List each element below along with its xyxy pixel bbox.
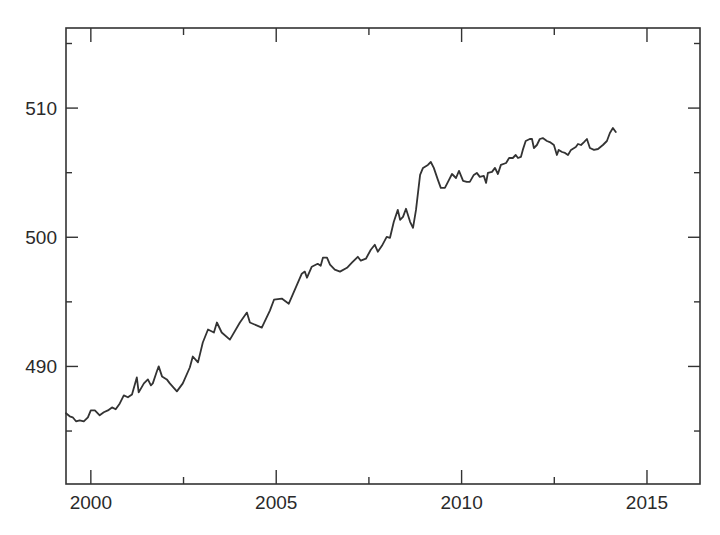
- tick-labels: 2000200520102015490500510: [25, 98, 668, 513]
- y-tick-label: 510: [25, 98, 57, 119]
- plot-frame: [66, 28, 700, 484]
- axis-ticks: [66, 28, 700, 484]
- data-line: [66, 128, 616, 421]
- x-tick-label: 2010: [440, 492, 482, 513]
- y-tick-label: 500: [25, 227, 57, 248]
- line-chart: 2000200520102015490500510: [0, 0, 720, 535]
- x-tick-label: 2015: [626, 492, 668, 513]
- x-tick-label: 2000: [70, 492, 112, 513]
- y-tick-label: 490: [25, 356, 57, 377]
- x-tick-label: 2005: [255, 492, 297, 513]
